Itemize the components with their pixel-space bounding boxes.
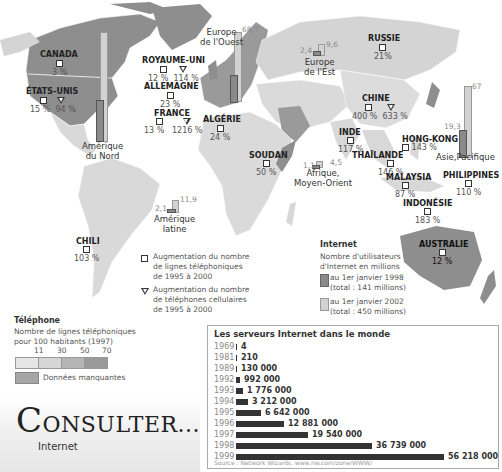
square-icon bbox=[402, 182, 409, 189]
legend-line: pour 100 habitants (1997) bbox=[14, 337, 113, 346]
legend-line: au 1er janvier 1998 bbox=[330, 273, 404, 282]
square-icon bbox=[141, 255, 148, 262]
legend-line: Augmentation du nombre bbox=[153, 252, 249, 261]
square-icon bbox=[424, 208, 431, 215]
region-label-latin-america: Amériquelatine bbox=[154, 214, 195, 234]
internet-legend-1998-swatch bbox=[320, 274, 329, 287]
country-label-algerie: ALGÉRIE bbox=[203, 115, 241, 124]
lines-increase: 24 % bbox=[210, 133, 230, 142]
square-icon bbox=[402, 144, 409, 151]
chart-bar bbox=[236, 421, 284, 427]
threshold-11: 11 bbox=[34, 346, 44, 356]
country-values-soudan: 50 % bbox=[256, 159, 276, 177]
mobile-increase: 633 % bbox=[383, 112, 408, 121]
legend-line: de 1995 à 2000 bbox=[153, 272, 212, 281]
chart-value: 6 642 000 bbox=[265, 408, 310, 417]
value-asia-pacific-1998: 19,3 bbox=[444, 122, 461, 131]
country-values-canada: 3 % bbox=[52, 59, 67, 77]
lines-increase: 50 % bbox=[256, 168, 276, 177]
country-label-uk: ROYAUME-UNI bbox=[142, 56, 205, 65]
world-map-shapes bbox=[0, 0, 502, 320]
internet-legend-1998: au 1er janvier 1998 (total : 141 million… bbox=[330, 273, 406, 293]
legend-triangle-text: Augmentation du nombre de téléphones cel… bbox=[153, 285, 249, 315]
legend-line: de 1995 à 2000 bbox=[153, 305, 212, 314]
lines-increase: 110 % bbox=[456, 188, 481, 197]
country-label-chine: CHINE bbox=[362, 94, 390, 103]
country-values-uk: 12 % 114 % bbox=[148, 65, 199, 83]
square-icon bbox=[347, 137, 354, 144]
consulter-title: CONSULTER... bbox=[16, 400, 200, 440]
region-label-western-europe: Europede l'Ouest bbox=[200, 27, 243, 47]
chart-row: 19694 bbox=[214, 341, 247, 352]
chart-row: 19931 776 000 bbox=[214, 385, 292, 396]
lines-increase: 15 % bbox=[30, 105, 50, 114]
chart-value: 12 881 000 bbox=[288, 419, 338, 428]
chart-year: 1981 bbox=[214, 353, 236, 362]
telephone-color-scale bbox=[15, 357, 108, 369]
legend-line: d'Internet en millions bbox=[320, 262, 400, 271]
chart-value: 56 218 000 bbox=[448, 452, 498, 461]
square-icon bbox=[56, 60, 63, 67]
telephone-legend-title: Téléphone bbox=[14, 316, 60, 325]
country-values-allemagne: 23 % bbox=[160, 91, 180, 109]
lines-increase: 103 % bbox=[74, 254, 99, 263]
region-name: Afrique, bbox=[306, 168, 339, 178]
scale-swatch-4 bbox=[85, 358, 107, 368]
threshold-70: 70 bbox=[102, 346, 112, 356]
country-values-chili: 103 % bbox=[74, 245, 99, 263]
chart-year: 1997 bbox=[214, 430, 236, 439]
square-icon bbox=[439, 249, 446, 256]
lines-increase: 3 % bbox=[52, 68, 67, 77]
region-label-north-america: Amériquedu Nord bbox=[82, 141, 123, 161]
chart-row: 1989130 000 bbox=[214, 363, 277, 374]
telephone-legend-subtitle: Nombre de lignes téléphoniques pour 100 … bbox=[14, 327, 136, 347]
title-initial: C bbox=[16, 400, 43, 440]
chart-value: 19 540 000 bbox=[312, 430, 362, 439]
square-icon bbox=[167, 92, 174, 99]
value-eastern-europe-1998: 2,4 bbox=[300, 46, 312, 55]
chart-bar bbox=[236, 388, 243, 394]
consulter-banner: CONSULTER... Internet bbox=[0, 398, 200, 472]
legend-line: (total : 450 millions) bbox=[330, 307, 406, 316]
internet-legend-subtitle: Nombre d'utilisateurs d'Internet en mill… bbox=[320, 252, 401, 272]
triangle-icon bbox=[179, 66, 187, 73]
chart-value: 3 212 000 bbox=[252, 397, 297, 406]
threshold-30: 30 bbox=[57, 346, 67, 356]
chart-row: 1981210 bbox=[214, 352, 258, 363]
title-rest: ONSULTER... bbox=[43, 412, 201, 437]
lines-increase: 400 % bbox=[352, 112, 377, 121]
lines-increase: 21% bbox=[374, 52, 392, 61]
chart-row: 199719 540 000 bbox=[214, 429, 362, 440]
bar-western-europe-1998 bbox=[230, 75, 238, 103]
lines-increase: 87 % bbox=[395, 190, 415, 199]
chart-title: Les serveurs Internet dans le monde bbox=[214, 329, 390, 339]
square-icon bbox=[83, 246, 90, 253]
country-label-canada: CANADA bbox=[40, 50, 78, 59]
chart-year: 1995 bbox=[214, 408, 236, 417]
country-values-philippines: 110 % bbox=[456, 179, 481, 197]
chart-value: 992 000 bbox=[244, 375, 280, 384]
servers-chart: Les serveurs Internet dans le monde 1969… bbox=[207, 325, 499, 469]
square-icon bbox=[379, 44, 386, 51]
chart-bar bbox=[236, 344, 237, 350]
bar-north-america-1998 bbox=[96, 100, 104, 142]
bar-latin-america-1998 bbox=[167, 209, 176, 213]
chart-bar bbox=[236, 410, 261, 416]
legend-square-text: Augmentation du nombre de lignes télépho… bbox=[153, 252, 249, 282]
legend-line: de téléphones cellulaires bbox=[153, 295, 247, 304]
square-icon bbox=[365, 104, 372, 111]
region-name: du Nord bbox=[86, 151, 120, 161]
country-values-malaysia: 87 % bbox=[395, 181, 415, 199]
chart-year: 1994 bbox=[214, 397, 236, 406]
chart-year: 1989 bbox=[214, 364, 236, 373]
legend-line: (total : 141 millions) bbox=[330, 283, 406, 292]
legend-line: Nombre d'utilisateurs bbox=[320, 252, 401, 261]
chart-source: Source : Network Wizards, www.nw.com/zon… bbox=[214, 459, 372, 466]
chart-bar bbox=[236, 432, 308, 438]
square-icon bbox=[156, 118, 163, 125]
missing-data-label: Données manquantes bbox=[43, 373, 125, 383]
square-icon bbox=[160, 66, 167, 73]
value-latin-america-2002: 11,9 bbox=[180, 195, 197, 204]
country-values-chine: 400 % 633 % bbox=[352, 103, 408, 121]
consulter-link-internet[interactable]: Internet bbox=[38, 441, 78, 452]
